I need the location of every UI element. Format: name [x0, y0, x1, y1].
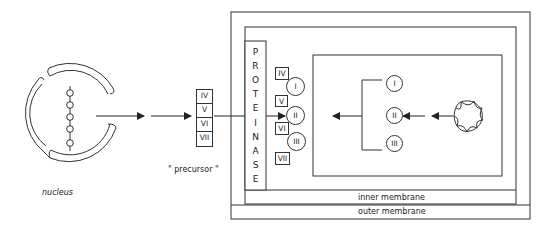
- precursor-subunit-V: V: [196, 103, 213, 118]
- precursor-subunit-VII: VII: [196, 131, 213, 147]
- precursor-label: " precursor ": [168, 165, 219, 175]
- imported-subunit-VII: VII: [275, 152, 290, 165]
- nucleus-label: nucleus: [42, 188, 73, 198]
- matrix-subunit-I: I: [386, 75, 403, 92]
- assembled-subunit-III: III: [287, 132, 306, 151]
- proteinase-label: P R O T E I N A S E: [245, 41, 266, 190]
- proteinase-letter: S: [253, 160, 259, 170]
- assembled-subunit-I: I: [286, 77, 305, 96]
- proteinase-letter: A: [252, 146, 258, 156]
- inner-membrane-label: inner membrane: [358, 193, 425, 203]
- mtdna-icon: [454, 101, 483, 132]
- assembled-subunit-II: II: [286, 106, 305, 125]
- outer-membrane-label: outer membrane: [358, 207, 426, 217]
- diagram-canvas: [0, 0, 549, 233]
- proteinase-letter: N: [252, 132, 259, 142]
- proteinase-letter: O: [252, 75, 259, 85]
- imported-subunit-VI: VI: [275, 122, 289, 135]
- matrix-subunit-II: II: [386, 107, 403, 124]
- precursor-subunit-IV: IV: [196, 89, 213, 104]
- imported-subunit-IV: IV: [275, 67, 289, 80]
- nucleus-icon: [25, 63, 116, 161]
- proteinase-letter: T: [253, 89, 259, 99]
- precursor-subunit-VI: VI: [196, 117, 213, 132]
- chromosome-icon: [67, 86, 74, 151]
- matrix-subunit-III: III: [386, 135, 403, 152]
- proteinase-letter: P: [253, 47, 258, 57]
- imported-subunit-V: V: [275, 95, 288, 107]
- proteinase-letter: R: [252, 61, 258, 71]
- matrix-bracket: [362, 80, 382, 150]
- proteinase-letter: I: [254, 118, 257, 128]
- proteinase-letter: E: [253, 174, 259, 184]
- proteinase-letter: E: [253, 103, 259, 113]
